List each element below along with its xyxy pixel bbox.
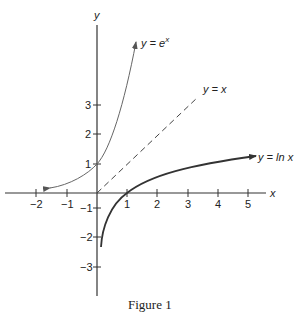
y-tick-labels: 3 2 1 −1 −2 −3	[80, 99, 93, 273]
x-tick-labels: −2 −1 1 2 3 4 5	[30, 198, 251, 210]
chart: x y −2 −1 1 2 3 4 5 3 2 1 −1 −2 −3	[0, 0, 307, 325]
x-axis: x	[5, 187, 276, 199]
figure-caption: Figure 1	[128, 297, 172, 312]
svg-text:3: 3	[185, 198, 191, 210]
label-ln: y = ln x	[257, 151, 294, 163]
series-identity	[97, 97, 198, 193]
x-axis-label: x	[269, 187, 276, 199]
svg-text:−2: −2	[80, 231, 93, 243]
svg-text:4: 4	[215, 198, 221, 210]
svg-text:−3: −3	[80, 261, 93, 273]
label-exp: y = ex	[140, 35, 170, 49]
svg-text:2: 2	[85, 128, 91, 140]
y-axis-label: y	[93, 9, 101, 21]
y-axis: y	[93, 9, 101, 296]
label-identity: y = x	[202, 83, 227, 95]
series-exp	[50, 42, 136, 188]
svg-text:1: 1	[85, 158, 91, 170]
svg-text:−1: −1	[80, 202, 93, 214]
svg-text:5: 5	[245, 198, 251, 210]
svg-text:3: 3	[85, 99, 91, 111]
svg-text:2: 2	[154, 198, 160, 210]
svg-text:−2: −2	[30, 198, 43, 210]
svg-text:−1: −1	[61, 198, 74, 210]
svg-text:1: 1	[124, 198, 130, 210]
